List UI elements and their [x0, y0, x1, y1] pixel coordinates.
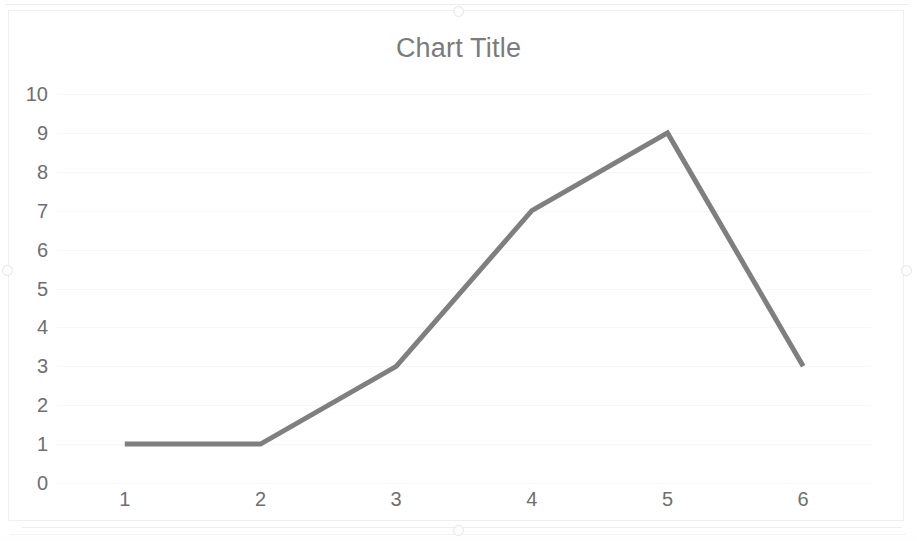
y-axis-tick-label: 8 — [0, 162, 48, 182]
x-axis-tick-label: 6 — [773, 489, 833, 509]
plot-area[interactable] — [57, 94, 871, 483]
y-axis-tick-label: 0 — [0, 473, 48, 493]
series-1-polyline[interactable] — [125, 133, 803, 444]
chart-title[interactable]: Chart Title — [0, 33, 917, 64]
handle-middle-left[interactable] — [2, 265, 13, 276]
y-axis-tick-label: 1 — [0, 434, 48, 454]
x-axis-tick-label: 3 — [366, 489, 426, 509]
x-axis-tick-label: 5 — [638, 489, 698, 509]
chart-object[interactable]: Chart Title 012345678910 123456 — [0, 0, 917, 541]
data-series-line[interactable] — [57, 94, 871, 483]
handle-middle-right[interactable] — [901, 265, 912, 276]
y-axis-tick-label: 3 — [0, 356, 48, 376]
chart-frame-top-edge — [6, 4, 908, 5]
gridline — [57, 483, 871, 484]
y-axis-tick-label: 2 — [0, 395, 48, 415]
y-axis-tick-labels[interactable]: 012345678910 — [0, 94, 48, 483]
handle-bottom-center[interactable] — [453, 525, 464, 536]
y-axis-tick-label: 4 — [0, 317, 48, 337]
x-axis-tick-label: 4 — [502, 489, 562, 509]
y-axis-tick-label: 9 — [0, 123, 48, 143]
y-axis-tick-label: 7 — [0, 201, 48, 221]
x-axis-tick-label: 2 — [231, 489, 291, 509]
handle-top-center[interactable] — [453, 6, 464, 17]
x-axis-tick-labels[interactable]: 123456 — [57, 489, 871, 517]
y-axis-tick-label: 10 — [0, 84, 48, 104]
y-axis-tick-label: 5 — [0, 279, 48, 299]
y-axis-tick-label: 6 — [0, 240, 48, 260]
x-axis-tick-label: 1 — [95, 489, 155, 509]
